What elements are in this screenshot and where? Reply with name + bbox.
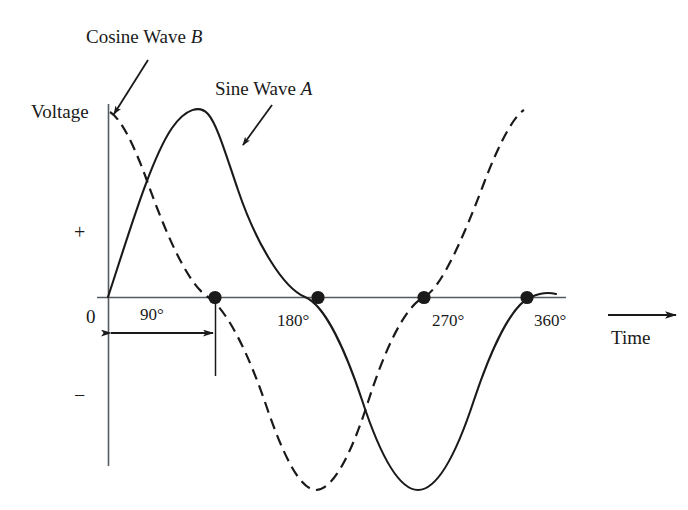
x-axis-label: Time bbox=[611, 328, 650, 347]
y-axis-negative-label: − bbox=[74, 385, 85, 405]
waveform-plot bbox=[0, 0, 688, 510]
axis-marker-180 bbox=[311, 291, 324, 304]
axis-marker-270 bbox=[417, 291, 430, 304]
x-tick-label-360: 360° bbox=[534, 312, 566, 329]
cosine-callout-label: Cosine Wave B bbox=[86, 27, 202, 46]
dimension-label-90: 90° bbox=[140, 306, 164, 323]
y-axis-label: Voltage bbox=[31, 102, 89, 121]
x-tick-label-270: 270° bbox=[432, 312, 464, 329]
sine-callout-text: Sine Wave bbox=[215, 78, 301, 99]
axis-marker-360 bbox=[520, 291, 533, 304]
sine-callout-symbol: A bbox=[301, 78, 313, 99]
sine-wave-curve bbox=[108, 109, 556, 490]
origin-label: 0 bbox=[86, 307, 96, 326]
waveform-figure: Voltage Cosine Wave B Sine Wave A + − 0 … bbox=[0, 0, 688, 510]
cosine-callout-arrow bbox=[114, 60, 148, 114]
cosine-callout-symbol: B bbox=[191, 26, 203, 47]
sine-callout-label: Sine Wave A bbox=[215, 79, 312, 98]
x-tick-label-180: 180° bbox=[277, 312, 309, 329]
cosine-callout-text: Cosine Wave bbox=[86, 26, 191, 47]
sine-callout-arrow bbox=[243, 105, 272, 145]
y-axis-positive-label: + bbox=[74, 222, 85, 242]
